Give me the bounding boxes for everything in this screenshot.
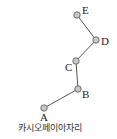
star-C-icon [73, 58, 79, 64]
line-B-C [76, 61, 78, 89]
line-A-B [44, 89, 78, 108]
star-label-B: B [82, 88, 89, 100]
star-B-icon [75, 86, 81, 92]
line-D-E [77, 15, 96, 40]
star-label-C: C [65, 61, 72, 73]
constellation-name: 카시오페이아자리 [0, 121, 100, 134]
star-D-icon [93, 37, 99, 43]
constellation-stars: ABCDE [40, 4, 109, 123]
star-E-icon [74, 12, 80, 18]
cassiopeia-diagram: ABCDE [0, 0, 117, 139]
star-label-E: E [82, 4, 89, 16]
star-label-D: D [101, 35, 109, 47]
line-C-D [76, 40, 96, 61]
